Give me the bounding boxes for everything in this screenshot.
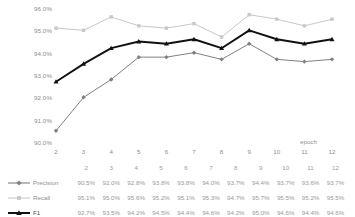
y-axis-tick-label: 91.0% xyxy=(12,116,52,123)
data-point-marker xyxy=(54,26,57,29)
table-column-header: 9 xyxy=(248,160,273,175)
table-cell-value: 94.6% xyxy=(323,205,348,216)
x-axis: 23456789101112 xyxy=(56,148,332,160)
table-cell-value: 94.4% xyxy=(174,205,199,216)
data-table: 23456789101112Precision90.5%92.0%92.8%93… xyxy=(8,160,348,216)
table-column-header: 12 xyxy=(323,160,348,175)
table-cell-value: 94.4% xyxy=(248,175,273,190)
legend-marker-icon xyxy=(8,179,30,187)
y-axis-tick-label: 95.0% xyxy=(12,27,52,34)
data-point-marker xyxy=(219,57,223,61)
x-axis-tick-label: 10 xyxy=(264,148,290,155)
x-axis-tick-label: 4 xyxy=(98,148,124,155)
data-point-marker xyxy=(137,24,140,27)
table-column-header: 7 xyxy=(198,160,223,175)
table-cell-value: 93.8% xyxy=(149,175,174,190)
table-cell-value: 95.6% xyxy=(124,190,149,205)
data-point-marker xyxy=(192,50,196,54)
x-axis-tick-label: 8 xyxy=(209,148,235,155)
legend-marker-icon xyxy=(8,194,30,202)
table-cell-value: 93.7% xyxy=(323,175,348,190)
data-point-marker xyxy=(110,15,113,18)
table-cell-value: 90.5% xyxy=(74,175,99,190)
table-cell-value: 94.2% xyxy=(124,205,149,216)
x-axis-tick-label: 11 xyxy=(291,148,317,155)
data-point-marker xyxy=(248,13,251,16)
data-point-marker xyxy=(165,26,168,29)
table-column-header: 10 xyxy=(273,160,298,175)
table-cell-value: 95.1% xyxy=(74,190,99,205)
legend-item-precision[interactable]: Precision xyxy=(8,175,74,190)
data-point-marker xyxy=(302,59,306,63)
table-column-header: 2 xyxy=(74,160,99,175)
table-column-header: 11 xyxy=(298,160,323,175)
series-line xyxy=(56,15,332,37)
x-axis-tick-label: 9 xyxy=(236,148,262,155)
x-axis-tick-label: 2 xyxy=(43,148,69,155)
data-point-marker xyxy=(247,42,251,46)
x-axis-tick-label: 3 xyxy=(71,148,97,155)
x-axis-tick-label: 6 xyxy=(153,148,179,155)
data-point-marker xyxy=(220,35,223,38)
legend-marker-icon xyxy=(8,209,30,217)
table-column-header: 5 xyxy=(149,160,174,175)
table-cell-value: 92.8% xyxy=(124,175,149,190)
table-corner-cell xyxy=(8,160,74,175)
table-row: F192.7%93.5%94.2%94.5%94.4%94.6%94.2%95.… xyxy=(8,205,348,216)
table-cell-value: 93.5% xyxy=(99,205,124,216)
legend-label: F1 xyxy=(33,209,40,216)
table-row: Recall95.1%95.0%95.6%95.2%95.1%95.3%94.7… xyxy=(8,190,348,205)
x-axis-tick-label: 7 xyxy=(181,148,207,155)
table-cell-value: 92.7% xyxy=(74,205,99,216)
table-row: Precision90.5%92.0%92.8%93.8%93.8%94.0%9… xyxy=(8,175,348,190)
data-point-marker xyxy=(164,55,168,59)
table-cell-value: 93.6% xyxy=(298,175,323,190)
data-point-marker xyxy=(303,24,306,27)
y-axis-tick-label: 93.0% xyxy=(12,72,52,79)
table-cell-value: 94.6% xyxy=(273,205,298,216)
data-point-marker xyxy=(275,57,279,61)
x-axis-title: epoch xyxy=(300,138,317,145)
table-cell-value: 95.2% xyxy=(298,190,323,205)
table-cell-value: 93.8% xyxy=(174,175,199,190)
data-point-marker xyxy=(82,29,85,32)
table-cell-value: 94.5% xyxy=(149,205,174,216)
data-point-marker xyxy=(330,57,334,61)
data-point-marker xyxy=(330,17,333,20)
table-cell-value: 95.0% xyxy=(99,190,124,205)
chart-series-svg xyxy=(56,8,332,142)
series-recall xyxy=(54,13,333,39)
table-cell-value: 95.7% xyxy=(248,190,273,205)
y-axis-tick-label: 92.0% xyxy=(12,94,52,101)
data-table-body: 23456789101112Precision90.5%92.0%92.8%93… xyxy=(8,160,348,216)
table-cell-value: 94.6% xyxy=(198,205,223,216)
x-axis-tick-label: 12 xyxy=(319,148,345,155)
y-axis-tick-label: 90.0% xyxy=(12,139,52,146)
y-axis-tick-label: 94.0% xyxy=(12,49,52,56)
table-cell-value: 95.5% xyxy=(323,190,348,205)
data-point-marker xyxy=(275,17,278,20)
table-cell-value: 92.0% xyxy=(99,175,124,190)
legend-item-recall[interactable]: Recall xyxy=(8,190,74,205)
table-cell-value: 94.2% xyxy=(223,205,248,216)
table-column-header: 4 xyxy=(124,160,149,175)
table-cell-value: 94.0% xyxy=(198,175,223,190)
table-cell-value: 95.2% xyxy=(149,190,174,205)
table-column-header: 8 xyxy=(223,160,248,175)
legend-item-f1[interactable]: F1 xyxy=(8,205,74,216)
legend-label: Precision xyxy=(33,179,58,186)
plot-area xyxy=(56,8,332,142)
table-cell-value: 93.7% xyxy=(223,175,248,190)
table-cell-value: 94.7% xyxy=(223,190,248,205)
table-cell-value: 95.1% xyxy=(174,190,199,205)
chart-page: 96.0%95.0%94.0%93.0%92.0%91.0%90.0% 2345… xyxy=(0,0,355,216)
table-cell-value: 94.4% xyxy=(298,205,323,216)
table-column-header: 3 xyxy=(99,160,124,175)
table-cell-value: 95.0% xyxy=(248,205,273,216)
legend-label: Recall xyxy=(33,194,50,201)
table-cell-value: 95.5% xyxy=(273,190,298,205)
table-header-row: 23456789101112 xyxy=(8,160,348,175)
table-cell-value: 93.7% xyxy=(273,175,298,190)
table-column-header: 6 xyxy=(174,160,199,175)
series-f1 xyxy=(54,28,335,84)
